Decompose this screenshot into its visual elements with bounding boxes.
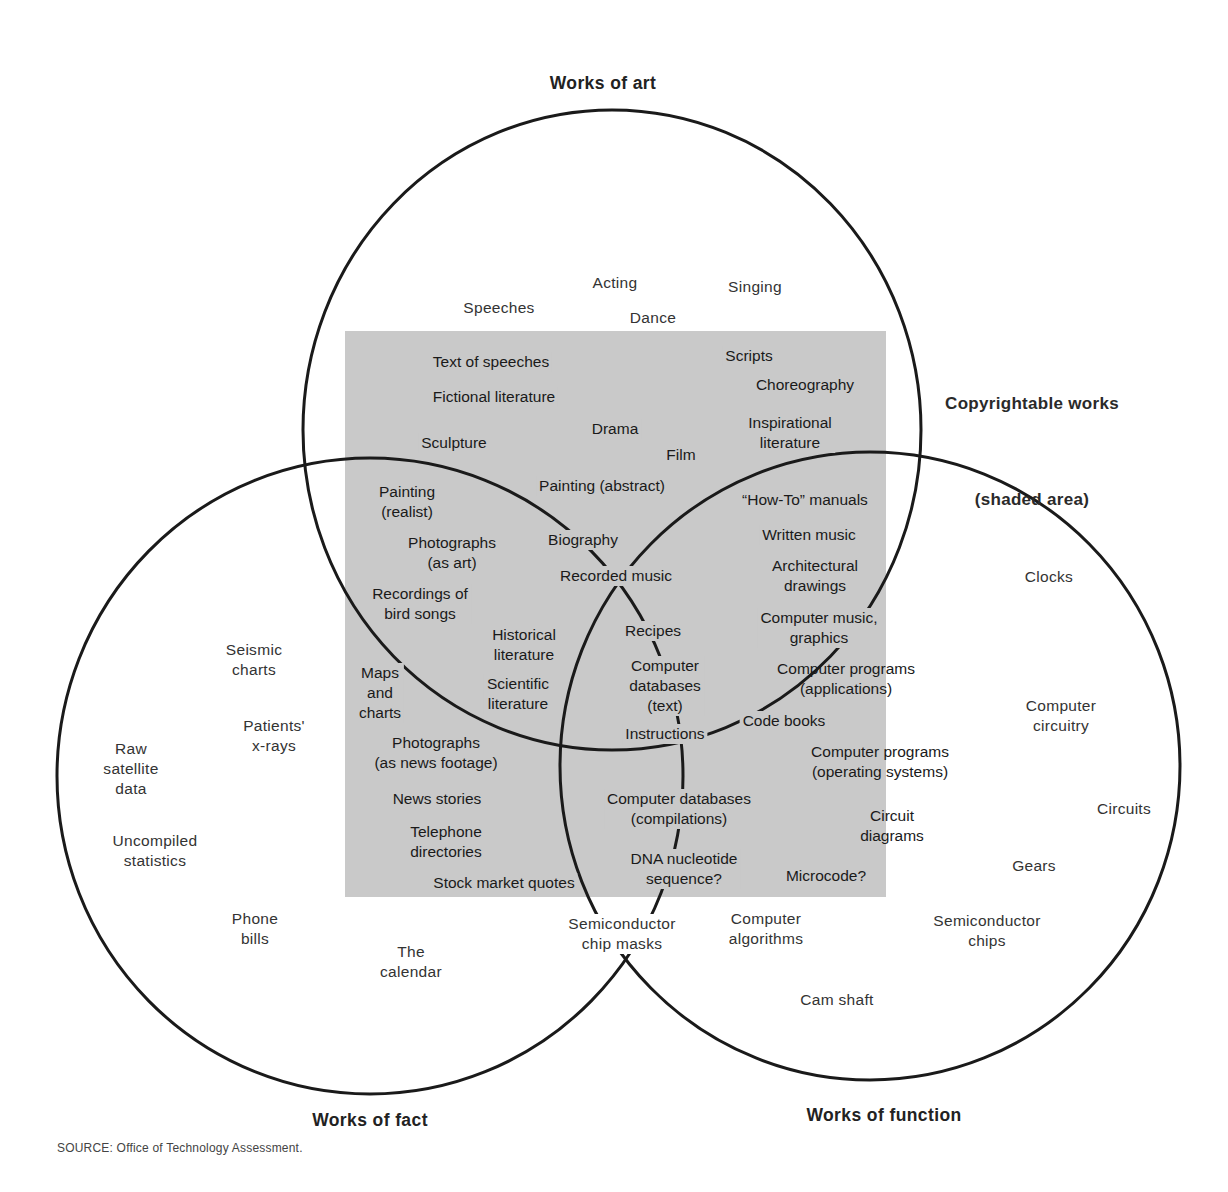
- diagram-label: Computer circuitry: [1023, 696, 1099, 736]
- legend: Copyrightable works (shaded area): [945, 332, 1119, 572]
- diagram-label: Painting (abstract): [536, 476, 668, 496]
- legend-title: Copyrightable works: [945, 380, 1119, 428]
- legend-subtitle: (shaded area): [945, 476, 1119, 524]
- diagram-label: Computer algorithms: [726, 909, 807, 949]
- diagram-label: Fictional literature: [430, 387, 558, 407]
- diagram-label: Painting (realist): [376, 482, 438, 522]
- source-note: SOURCE: Office of Technology Assessment.: [57, 1141, 303, 1155]
- diagram-label: Sculpture: [418, 433, 489, 453]
- diagram-label: Stock market quotes: [430, 873, 577, 893]
- diagram-label: Computer databases (compilations): [604, 789, 754, 829]
- diagram-label: Scientific literature: [484, 674, 552, 714]
- diagram-label: Biography: [545, 530, 621, 550]
- diagram-label: Raw satellite data: [100, 739, 161, 799]
- diagram-label: Inspirational literature: [745, 413, 835, 453]
- diagram-label: “How-To” manuals: [739, 490, 871, 510]
- works-of-art-title: Works of art: [550, 73, 657, 94]
- diagram-label: Recipes: [622, 621, 684, 641]
- diagram-label: News stories: [390, 789, 485, 809]
- works-of-function-title: Works of function: [806, 1105, 961, 1126]
- diagram-label: Circuits: [1094, 799, 1154, 819]
- diagram-label: Telephone directories: [407, 822, 485, 862]
- diagram-label: Patients' x-rays: [240, 716, 308, 756]
- diagram-label: Film: [663, 445, 698, 465]
- diagram-label: Cam shaft: [797, 990, 876, 1010]
- diagram-label: Computer databases (text): [626, 656, 704, 716]
- diagram-label: Semiconductor chip masks: [565, 914, 678, 954]
- diagram-label: Code books: [740, 711, 829, 731]
- diagram-label: Dance: [627, 308, 679, 328]
- diagram-label: Circuit diagrams: [857, 806, 927, 846]
- diagram-label: Microcode?: [783, 866, 869, 886]
- diagram-label: Recorded music: [557, 566, 675, 586]
- diagram-label: Uncompiled statistics: [110, 831, 201, 871]
- venn-circles: [0, 0, 1228, 1192]
- diagram-label: Acting: [590, 273, 641, 293]
- diagram-label: Semiconductor chips: [930, 911, 1043, 951]
- diagram-label: Gears: [1009, 856, 1059, 876]
- diagram-label: Recordings of bird songs: [369, 584, 471, 624]
- works-of-fact-title: Works of fact: [312, 1110, 428, 1131]
- diagram-label: Maps and charts: [356, 663, 404, 723]
- diagram-label: Drama: [589, 419, 642, 439]
- copyright-venn-diagram: SpeechesActingSingingDanceText of speech…: [0, 0, 1228, 1192]
- diagram-label: Photographs (as art): [405, 533, 499, 573]
- diagram-label: Choreography: [753, 375, 857, 395]
- diagram-label: Phone bills: [229, 909, 281, 949]
- diagram-label: Historical literature: [489, 625, 559, 665]
- diagram-label: Computer programs (operating systems): [808, 742, 952, 782]
- diagram-label: Scripts: [722, 346, 775, 366]
- diagram-label: Photographs (as news footage): [371, 733, 500, 773]
- diagram-label: Architectural drawings: [769, 556, 861, 596]
- diagram-label: Text of speeches: [430, 352, 552, 372]
- diagram-label: Seismic charts: [223, 640, 285, 680]
- diagram-label: The calendar: [377, 942, 445, 982]
- diagram-label: Computer music, graphics: [757, 608, 880, 648]
- diagram-label: Speeches: [460, 298, 537, 318]
- diagram-label: DNA nucleotide sequence?: [628, 849, 741, 889]
- diagram-label: Singing: [725, 277, 785, 297]
- diagram-label: Written music: [759, 525, 859, 545]
- diagram-label: Instructions: [622, 724, 707, 744]
- diagram-label: Computer programs (applications): [774, 659, 918, 699]
